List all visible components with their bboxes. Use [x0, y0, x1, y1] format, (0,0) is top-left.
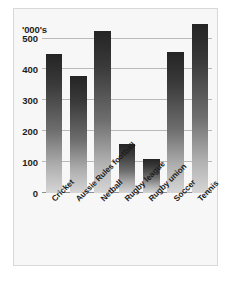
bar: [192, 24, 209, 193]
y-axis-tick-label: 100: [22, 156, 38, 167]
y-axis-tick-label: 500: [22, 33, 38, 44]
bar: [70, 76, 87, 193]
y-axis-tick-label: 400: [22, 63, 38, 74]
y-axis-tick-label: 0: [33, 187, 38, 198]
y-axis-tick-label: 200: [22, 125, 38, 136]
x-axis-tick-labels: CricketAussie Rules footballNetballRugby…: [42, 193, 212, 281]
bar: [46, 54, 63, 193]
bar-chart-figure: '000's 0100200300400500 CricketAussie Ru…: [0, 0, 230, 283]
y-axis-tick-label: 300: [22, 94, 38, 105]
